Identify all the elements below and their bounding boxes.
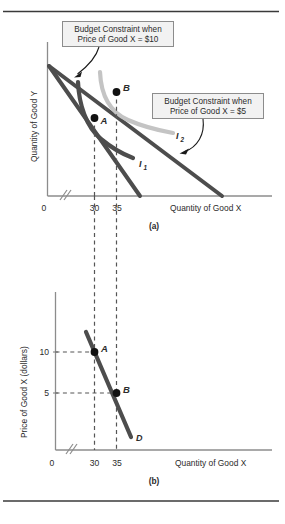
indifference-curve-i1-subscript: 1 bbox=[144, 164, 148, 171]
callout-price-5-line2: Price of Good X = $5 bbox=[170, 107, 247, 116]
callout-price-5-line1: Budget Constraint when bbox=[164, 97, 252, 106]
point-a-label-panel-b: A bbox=[100, 343, 108, 354]
callout-price-5-arrow bbox=[184, 119, 203, 152]
indifference-curve-i2-subscript: 2 bbox=[180, 136, 185, 143]
callout-price-10: Budget Constraint when Price of Good X =… bbox=[63, 22, 174, 78]
point-b-label-panel-a: B bbox=[123, 82, 130, 93]
panel-a: A B I 1 I 2 Quantity of Good Y Quantity … bbox=[29, 42, 272, 231]
point-a-label-panel-a: A bbox=[100, 115, 108, 126]
indifference-curve-i1-label: I bbox=[139, 159, 142, 169]
panel-a-x-axis-label: Quantity of Good X bbox=[170, 203, 242, 213]
point-b-panel-b bbox=[113, 389, 121, 397]
panel-b-x-axis-label: Quantity of Good X bbox=[175, 458, 247, 468]
callout-price-10-arrow bbox=[78, 47, 100, 74]
panel-a-xtick-35: 35 bbox=[112, 203, 122, 213]
panel-b-label: (b) bbox=[149, 476, 160, 486]
panel-b: A B D Price of Good X (dollars) 10 5 Qua… bbox=[19, 292, 272, 486]
callout-price-5-arrowhead-icon bbox=[180, 149, 190, 155]
point-b-panel-a bbox=[113, 88, 121, 96]
callout-price-10-line1: Budget Constraint when bbox=[74, 25, 162, 34]
point-a-panel-a bbox=[91, 114, 99, 122]
point-a-panel-b bbox=[91, 348, 99, 356]
panel-b-xtick-35: 35 bbox=[112, 458, 122, 468]
point-b-label-panel-b: B bbox=[123, 384, 130, 395]
panel-a-origin-label: 0 bbox=[42, 203, 47, 213]
callout-price-10-line2: Price of Good X = $10 bbox=[78, 35, 159, 44]
panel-a-y-axis-label: Quantity of Good Y bbox=[29, 91, 39, 162]
panel-a-label: (a) bbox=[149, 221, 159, 231]
budget-line-price-5 bbox=[49, 66, 222, 196]
callout-price-5: Budget Constraint when Price of Good X =… bbox=[153, 94, 264, 155]
callout-price-10-arrowhead-icon bbox=[74, 72, 82, 78]
panel-b-ytick-5: 5 bbox=[44, 388, 49, 398]
panel-b-origin-label: 0 bbox=[50, 458, 55, 468]
demand-curve-label: D bbox=[136, 433, 143, 443]
economics-figure: A B I 1 I 2 Quantity of Good Y Quantity … bbox=[0, 0, 285, 524]
panel-b-axis-break-icon bbox=[66, 444, 77, 454]
panel-a-axis-break-icon bbox=[60, 190, 71, 200]
indifference-curve-i2-label: I bbox=[176, 131, 179, 141]
panel-b-ytick-10: 10 bbox=[39, 347, 49, 357]
panel-b-y-axis-label: Price of Good X (dollars) bbox=[19, 346, 29, 438]
panel-b-xtick-30: 30 bbox=[90, 458, 100, 468]
